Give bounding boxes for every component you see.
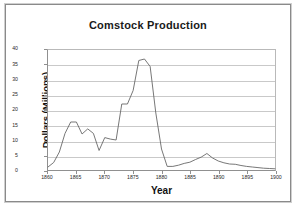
y-axis-tick-label: 5 <box>0 153 18 158</box>
chart-title: Comstock Production <box>6 19 290 31</box>
y-axis-tick-label: 25 <box>0 92 18 97</box>
x-axis-tick-label: 1900 <box>261 175 291 180</box>
y-axis-tick-label: 20 <box>0 107 18 112</box>
x-axis-tick-mark <box>190 171 191 174</box>
x-axis-tick-label: 1870 <box>89 175 119 180</box>
x-axis-tick-label: 1860 <box>32 175 62 180</box>
y-axis-tick-label: 0 <box>0 168 18 173</box>
plot-area <box>47 49 276 171</box>
x-axis-tick-label: 1895 <box>232 175 262 180</box>
series-comstock-production <box>48 50 275 170</box>
x-axis-tick-mark <box>104 171 105 174</box>
y-axis-label-container: Dollars (Millions) <box>20 49 36 171</box>
x-axis-tick-mark <box>162 171 163 174</box>
y-axis-tick-label: 40 <box>0 46 18 51</box>
x-axis-label: Year <box>47 185 276 196</box>
x-axis-tick-mark <box>276 171 277 174</box>
x-axis-tick-label: 1865 <box>61 175 91 180</box>
x-axis-tick-label: 1890 <box>204 175 234 180</box>
y-axis-tick-label: 10 <box>0 138 18 143</box>
y-axis-tick-label: 35 <box>0 62 18 67</box>
x-axis-tick-label: 1885 <box>175 175 205 180</box>
x-axis-tick-label: 1880 <box>147 175 177 180</box>
x-axis-tick-mark <box>47 171 48 174</box>
y-axis-tick-label: 30 <box>0 77 18 82</box>
x-axis-tick-mark <box>76 171 77 174</box>
x-axis-tick-label: 1875 <box>118 175 148 180</box>
x-axis-tick-mark <box>133 171 134 174</box>
chart-frame: Comstock Production Dollars (Millions) 0… <box>5 4 291 202</box>
x-axis-tick-mark <box>219 171 220 174</box>
x-axis-tick-mark <box>247 171 248 174</box>
y-axis-tick-label: 15 <box>0 123 18 128</box>
